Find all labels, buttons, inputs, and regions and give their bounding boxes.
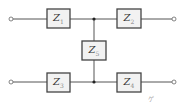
terminal-bottom-right	[172, 80, 176, 84]
terminal-bottom-left	[9, 80, 13, 84]
terminal-top-left	[9, 17, 13, 21]
label-z3: Z3	[47, 77, 70, 89]
label-z4: Z4	[117, 77, 141, 89]
terminal-top-right	[172, 17, 176, 21]
label-z5: Z5	[82, 45, 106, 57]
junction-top	[92, 17, 95, 20]
label-z2: Z2	[117, 13, 141, 25]
junction-bottom	[92, 80, 95, 83]
figure-note: ゲ	[148, 94, 154, 103]
label-z1: Z1	[47, 13, 70, 25]
